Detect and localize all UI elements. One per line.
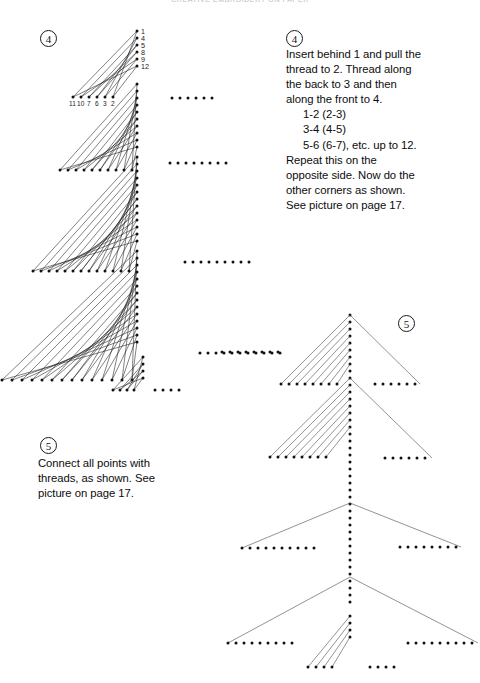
right-tier-2-left-dots: [269, 456, 328, 459]
left-tier-3-threads: [33, 157, 137, 271]
left-diagram-mirror-dot-rows: [154, 97, 282, 392]
right-tier-1-right-dots: [374, 383, 417, 386]
left-trunk-threads: [113, 357, 143, 390]
instruction-line: other corners as shown.: [286, 183, 476, 198]
instruction-line: See picture on page 17.: [286, 198, 476, 213]
left-tier-4-dots: [1, 379, 134, 382]
left-horizontal-number-labels: 11 10 7 6 3 2: [69, 100, 115, 107]
right-spine-dots: [349, 314, 352, 604]
instruction-line: opposite side. Now do the: [286, 168, 476, 183]
left-trunk-dots: [112, 356, 145, 392]
right-diagram-left-stray-dots: [221, 351, 280, 354]
right-trunk-dots: [307, 615, 352, 669]
right-tier-2-left-threads: [270, 378, 350, 457]
svg-text:2: 2: [111, 100, 115, 107]
left-vertical-number-labels: 1 4 5 8 9 12: [141, 27, 149, 72]
instruction-line: picture on page 17.: [38, 486, 208, 501]
running-head: CREATIVE EMBROIDERY ON PAPER: [0, 0, 480, 3]
page-canvas: CREATIVE EMBROIDERY ON PAPER: [0, 0, 480, 683]
instruction-line-sequence: 3-4 (4-5): [286, 122, 476, 137]
right-diagram: [221, 314, 479, 669]
instruction-line: Connect all points with: [38, 456, 208, 471]
left-tier-3-dots: [32, 270, 131, 273]
right-tier-4-right-dots: [407, 642, 474, 645]
right-tier-4-left-dots: [227, 642, 294, 645]
instruction-block-step5: Connect all points with threads, as show…: [38, 456, 208, 501]
svg-text:10: 10: [77, 100, 85, 107]
instruction-line: thread to 2. Thread along: [286, 62, 476, 77]
step-marker-right-diagram: 5: [398, 315, 415, 332]
left-tier-1-threads: [73, 31, 137, 97]
svg-text:6: 6: [95, 100, 99, 107]
left-tier-2-dots: [59, 169, 134, 172]
right-tier-1-left-threads: [281, 315, 350, 384]
svg-text:5: 5: [141, 41, 145, 50]
left-diagram: 1 4 5 8 9 12 11 10 7 6 3 2: [1, 27, 150, 392]
instruction-line-sequence: 5-6 (6-7), etc. up to 12.: [286, 138, 476, 153]
instruction-line-sequence: 1-2 (2-3): [286, 107, 476, 122]
right-tier-4-edges: [228, 577, 478, 643]
left-tier-2-threads: [60, 84, 137, 170]
svg-text:7: 7: [87, 100, 91, 107]
instruction-line: Insert behind 1 and pull the: [286, 47, 476, 62]
left-tier-4-threads: [2, 251, 137, 380]
svg-text:11: 11: [69, 100, 76, 107]
step-marker-left-diagram: 4: [40, 30, 57, 47]
svg-text:9: 9: [141, 55, 145, 64]
right-tier-3-left-dots: [241, 547, 316, 550]
right-tier-3-edges: [242, 503, 461, 548]
instruction-line: along the front to 4.: [286, 92, 476, 107]
svg-text:12: 12: [141, 62, 149, 71]
right-tier-3-right-dots: [399, 546, 458, 549]
instruction-line: threads, as shown. See: [38, 471, 208, 486]
left-tier-1-dots: [72, 96, 115, 99]
right-trunk-mirror-dots: [369, 666, 396, 669]
step-marker-step5-text: 5: [40, 437, 57, 454]
instruction-line: Repeat this on the: [286, 153, 476, 168]
instruction-line: the back to 3 and then: [286, 77, 476, 92]
left-spine-dots: [136, 30, 139, 344]
right-tier-2-right-dots: [384, 457, 427, 460]
svg-text:8: 8: [141, 48, 145, 57]
right-trunk-threads: [308, 616, 350, 667]
svg-text:1: 1: [141, 27, 145, 36]
svg-text:4: 4: [141, 34, 145, 43]
right-tier-1-left-dots: [280, 383, 339, 386]
instruction-block-step4: Insert behind 1 and pull the thread to 2…: [286, 47, 476, 213]
svg-text:3: 3: [103, 100, 107, 107]
step-marker-step4-text: 4: [286, 30, 303, 47]
right-tier-2-right-edge: [350, 378, 432, 458]
